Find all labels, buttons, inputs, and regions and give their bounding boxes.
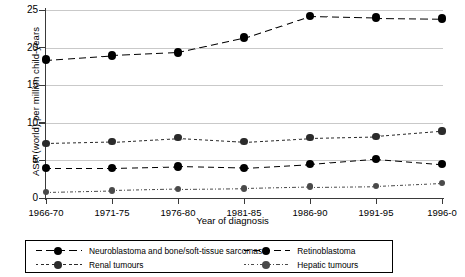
series-line-segment xyxy=(376,183,442,187)
legend-marker xyxy=(262,247,270,255)
data-point xyxy=(109,187,116,194)
y-axis-tick xyxy=(39,122,46,123)
data-point xyxy=(43,189,50,196)
y-axis-tick-label: 5 xyxy=(14,155,38,165)
legend-marker xyxy=(262,261,270,269)
series-line-segment xyxy=(46,190,112,193)
x-axis-title: Year of diagnosis xyxy=(0,215,465,226)
legend-swatch xyxy=(36,246,82,256)
series-line-segment xyxy=(310,186,376,188)
legend-label: Hepatic tumours xyxy=(297,260,358,270)
data-point xyxy=(241,185,248,192)
x-axis-tick xyxy=(310,198,311,204)
legend-swatch xyxy=(244,246,290,256)
legend-item: Retinoblastoma xyxy=(238,244,392,258)
y-axis-tick-label: 25 xyxy=(14,5,38,15)
y-axis-tick-label: 0 xyxy=(14,193,38,203)
legend-label: Neuroblastoma and bone/soft-tissue sarco… xyxy=(89,246,262,256)
data-point xyxy=(439,180,446,187)
series-line-segment xyxy=(112,189,178,192)
x-axis-tick xyxy=(244,198,245,204)
legend-swatch xyxy=(36,260,82,270)
y-axis-tick xyxy=(39,160,46,161)
legend-item: Hepatic tumours xyxy=(238,258,392,272)
chart-figure: ASR (world) per million child-years 0510… xyxy=(0,0,465,277)
y-axis-tick-label: 20 xyxy=(14,43,38,53)
legend-label: Renal tumours xyxy=(89,260,143,270)
y-axis-tick xyxy=(39,10,46,11)
y-axis-tick-label: 15 xyxy=(14,80,38,90)
data-point xyxy=(175,186,182,193)
legend-marker xyxy=(54,261,62,269)
legend-marker xyxy=(54,247,62,255)
legend-item: Neuroblastoma and bone/soft-tissue sarco… xyxy=(26,244,238,258)
y-axis-title: ASR (world) per million child-years xyxy=(30,7,41,197)
x-axis-tick xyxy=(46,198,47,204)
x-axis-tick xyxy=(112,198,113,204)
legend-swatch xyxy=(244,260,290,270)
series-line-segment xyxy=(178,188,244,190)
x-axis-tick xyxy=(178,198,179,204)
series-3 xyxy=(46,10,443,198)
legend-item: Renal tumours xyxy=(26,258,238,272)
y-axis-tick xyxy=(39,198,46,199)
plot-area: 0510152025 1966-701971-751976-801981-851… xyxy=(46,10,443,198)
series-line-segment xyxy=(244,187,310,190)
data-point xyxy=(307,183,314,190)
x-axis-tick xyxy=(442,198,443,204)
y-axis-tick xyxy=(39,85,46,86)
chart-legend: Neuroblastoma and bone/soft-tissue sarco… xyxy=(25,240,393,273)
data-point xyxy=(373,183,380,190)
legend-label: Retinoblastoma xyxy=(297,246,355,256)
x-axis-tick xyxy=(376,198,377,204)
y-axis-tick-label: 10 xyxy=(14,118,38,128)
y-axis-tick xyxy=(39,47,46,48)
